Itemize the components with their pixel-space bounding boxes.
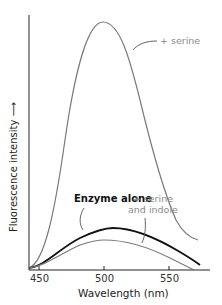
annotation-serine-indole-line1: + serine xyxy=(128,193,178,204)
y-axis-label: Fluorescence intensity ⟶ xyxy=(8,102,19,232)
x-tick-label-550: 550 xyxy=(160,273,179,284)
annotation-serine-indole: + serine and indole xyxy=(128,193,178,215)
x-tick-label-450: 450 xyxy=(30,273,49,284)
leader-enzyme xyxy=(80,208,84,230)
series-serine xyxy=(29,22,198,268)
annotation-serine-indole-line2: and indole xyxy=(128,204,178,215)
x-axis-label: Wavelength (nm) xyxy=(78,287,169,299)
annotation-serine: + serine xyxy=(160,35,200,46)
x-tick-label-500: 500 xyxy=(95,273,114,284)
leader-serine xyxy=(133,41,157,50)
series-enzyme-alone xyxy=(29,228,200,268)
leader-indole xyxy=(142,218,145,243)
